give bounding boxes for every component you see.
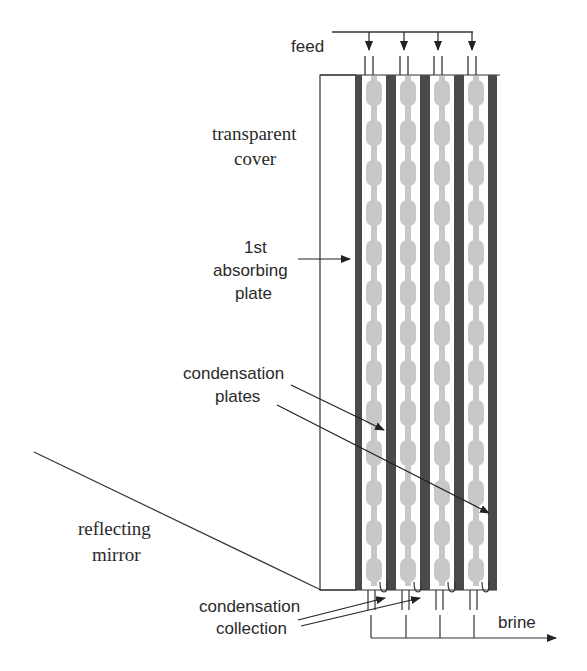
label-transparent-cover: transparent <box>212 123 297 144</box>
transparent-cover <box>320 75 356 590</box>
absorbing-plate <box>355 75 362 590</box>
collection-arrow-2 <box>301 598 420 626</box>
label-condensation-collection: condensation <box>199 597 300 616</box>
label-condensation-plates: condensation <box>183 364 284 383</box>
condensation-plate-4 <box>488 75 497 590</box>
label-brine: brine <box>498 613 536 632</box>
label-reflecting-mirror: reflecting <box>78 518 151 539</box>
feed-manifold <box>332 32 476 75</box>
label-absorbing: 1st <box>244 238 267 257</box>
condensation-plate-3 <box>454 75 464 590</box>
label-condensation-collection-2: collection <box>216 619 287 638</box>
condensation-plate-1 <box>386 75 396 590</box>
condensation-plate-2 <box>420 75 430 590</box>
label-condensation-plates-2: plates <box>215 387 260 406</box>
label-reflecting-mirror-2: mirror <box>92 544 141 565</box>
label-feed: feed <box>291 37 324 56</box>
label-transparent-cover-2: cover <box>234 148 277 169</box>
solar-still-diagram: feed transparent cover 1st absorbing pla… <box>0 0 587 671</box>
label-absorbing-3: plate <box>235 284 272 303</box>
label-absorbing-2: absorbing <box>213 261 288 280</box>
